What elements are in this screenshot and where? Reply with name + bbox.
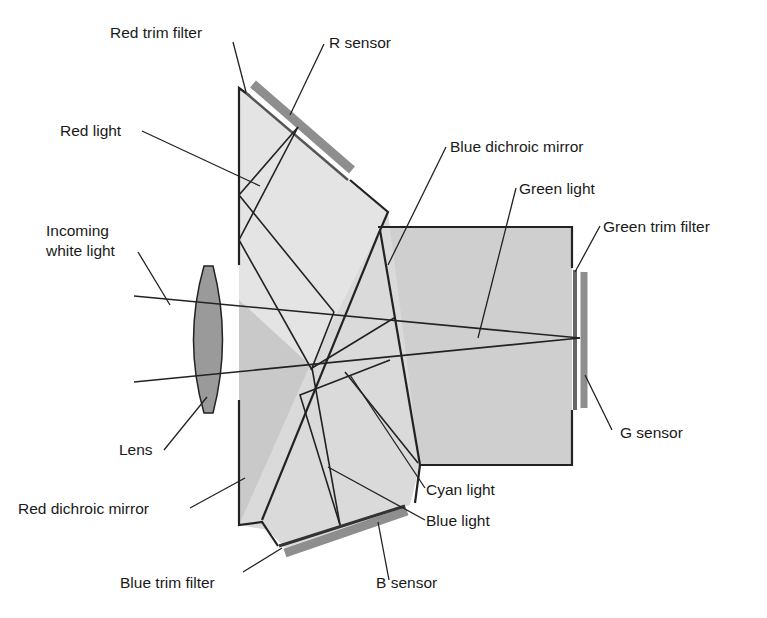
label-lens: Lens (119, 441, 153, 458)
lens (194, 266, 223, 413)
label-blue-dichroic-mirror: Blue dichroic mirror (450, 138, 584, 155)
label-red-dichroic-mirror: Red dichroic mirror (18, 500, 149, 517)
label-incoming-line1: Incoming (46, 222, 109, 239)
leader-red-dichroic (190, 478, 245, 508)
leader-green-trim (575, 226, 600, 272)
leader-lens (164, 397, 207, 450)
label-incoming-line2: white light (45, 242, 116, 259)
leader-red-trim-filter (233, 42, 246, 92)
label-r-sensor: R sensor (329, 34, 391, 51)
label-red-trim-filter: Red trim filter (110, 24, 202, 41)
leader-r-sensor (290, 44, 324, 115)
label-cyan-light: Cyan light (426, 481, 496, 498)
label-green-trim-filter: Green trim filter (603, 218, 710, 235)
leader-g-sensor (585, 375, 612, 430)
label-g-sensor: G sensor (620, 424, 683, 441)
label-red-light: Red light (60, 122, 122, 139)
label-b-sensor: B sensor (376, 574, 437, 591)
leader-blue-trim (243, 548, 282, 572)
label-green-light: Green light (519, 180, 596, 197)
label-blue-light: Blue light (426, 512, 490, 529)
leader-b-sensor (378, 522, 389, 580)
prism-diagram: Red trim filter R sensor Red light Blue … (0, 0, 767, 618)
diagram-canvas: Red trim filter R sensor Red light Blue … (0, 0, 767, 618)
label-blue-trim-filter: Blue trim filter (120, 574, 215, 591)
